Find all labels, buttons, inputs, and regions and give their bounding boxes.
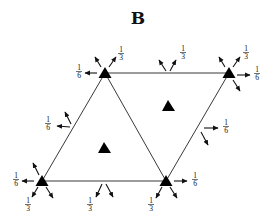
arrow-up-right-icon (233, 57, 240, 67)
arrow-down-left-icon (96, 184, 102, 197)
face-markers (98, 100, 175, 153)
label-top-edge: 1 3 (180, 44, 186, 61)
label-bm-outer: 1 6 (192, 171, 198, 188)
edge-left (42, 73, 105, 181)
vertex-bottom-middle-triangle-icon (160, 175, 173, 186)
vertex-top-right-triangle-icon (223, 67, 236, 78)
label-tl-outer: 1 6 (76, 63, 82, 80)
svg-text:6: 6 (77, 71, 81, 80)
lattice-edges (42, 73, 229, 181)
arrow-up-left-icon (219, 57, 225, 67)
face-left-triangle-icon (98, 142, 111, 153)
label-bottom-edge: 1 3 (87, 196, 93, 213)
label-right-edge: 1 6 (223, 118, 229, 135)
label-left-edge: 1 6 (45, 115, 51, 132)
edge-middle (105, 73, 166, 181)
svg-text:6: 6 (193, 179, 197, 188)
svg-text:3: 3 (244, 52, 248, 61)
arrows-bottom-edge (96, 184, 113, 197)
svg-text:3: 3 (119, 53, 123, 62)
arrows-top-right (219, 57, 250, 91)
arrows-top-left (85, 57, 116, 73)
arrows-left-edge (57, 112, 71, 127)
edge-right (166, 73, 229, 181)
arrow-down-icon (201, 132, 208, 145)
arrow-up-icon (65, 112, 71, 124)
arrow-down-right-icon (170, 187, 177, 198)
svg-text:6: 6 (46, 123, 50, 132)
arrow-left-icon (57, 126, 70, 127)
arrow-down-left-icon (32, 187, 38, 197)
svg-text:6: 6 (224, 126, 228, 135)
svg-text:6: 6 (255, 73, 259, 82)
arrows-bottom-left (22, 163, 53, 198)
vertex-top-left-triangle-icon (99, 67, 112, 78)
label-tr-up: 1 3 (243, 44, 249, 61)
svg-text:3: 3 (26, 204, 30, 213)
arrow-up-right-icon (109, 57, 116, 67)
svg-text:3: 3 (88, 204, 92, 213)
svg-text:3: 3 (149, 204, 153, 213)
arrows-top-edge (159, 60, 176, 71)
label-bl-down: 1 3 (25, 196, 31, 213)
arrow-up-left-icon (159, 60, 166, 71)
label-bm-down: 1 3 (148, 196, 154, 213)
arrow-down-right-icon (46, 187, 53, 198)
label-tr-outer: 1 6 (254, 65, 260, 82)
arrow-up-left-icon (95, 57, 101, 67)
face-right-triangle-icon (162, 100, 175, 111)
arrow-down-left-icon (156, 187, 162, 198)
arrows-right-edge (201, 128, 218, 145)
arrows-bottom-middle (156, 181, 187, 198)
lattice-diagram: B 1 6 1 3 1 3 (0, 0, 276, 220)
label-bl-outer: 1 6 (13, 171, 19, 188)
arrow-down-right-icon (233, 80, 240, 91)
svg-text:3: 3 (181, 52, 185, 61)
vertex-bottom-left-triangle-icon (36, 175, 49, 186)
svg-text:6: 6 (14, 179, 18, 188)
label-tl-up: 1 3 (118, 45, 124, 62)
diagram-title: B (131, 8, 145, 28)
arrow-up-right-icon (170, 60, 176, 71)
arrow-down-right-icon (106, 184, 113, 197)
arrow-up-left-icon (33, 163, 39, 175)
